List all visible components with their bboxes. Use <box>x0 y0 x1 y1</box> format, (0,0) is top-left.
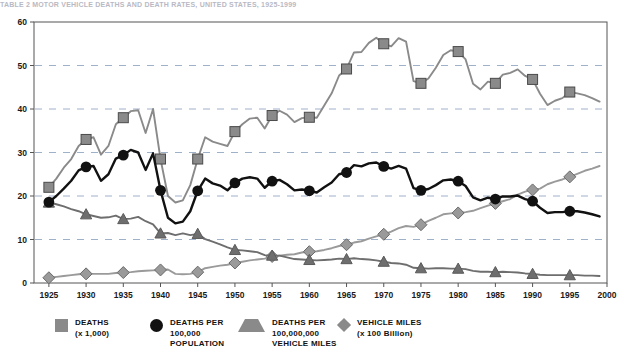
legend-sub2-deaths-per-vehicle-miles: VEHICLE MILES <box>272 339 337 350</box>
svg-text:10: 10 <box>18 235 28 245</box>
svg-text:1940: 1940 <box>151 290 170 300</box>
svg-text:60: 60 <box>18 17 28 27</box>
svg-text:1935: 1935 <box>114 290 133 300</box>
svg-text:1995: 1995 <box>560 290 579 300</box>
legend-sub2-deaths-per-population: POPULATION <box>170 339 224 350</box>
circle-marker-icon <box>150 319 163 332</box>
square-marker-icon <box>55 319 68 332</box>
svg-text:1960: 1960 <box>300 290 319 300</box>
svg-text:1975: 1975 <box>412 290 431 300</box>
svg-text:1965: 1965 <box>337 290 356 300</box>
legend-item-deaths-per-population: DEATHS PER 100,000 POPULATION <box>150 318 224 350</box>
legend-item-vehicle-miles: VEHICLE MILES (x 100 Billion) <box>337 318 422 339</box>
legend-label-deaths: DEATHS <box>75 318 109 329</box>
legend-sub-deaths-per-vehicle-miles: 100,000,000 <box>272 329 337 340</box>
diamond-marker-icon <box>337 318 351 332</box>
line-chart-plot: 0102030405060192519301935194019451950195… <box>0 0 624 312</box>
svg-text:2000: 2000 <box>598 290 617 300</box>
legend-sub-deaths-per-population: 100,000 <box>170 329 224 340</box>
svg-text:1945: 1945 <box>188 290 207 300</box>
svg-text:1930: 1930 <box>77 290 96 300</box>
svg-text:1970: 1970 <box>374 290 393 300</box>
svg-text:1990: 1990 <box>523 290 542 300</box>
chart-legend: DEATHS (x 1,000) DEATHS PER 100,000 POPU… <box>0 312 624 358</box>
legend-sub-vehicle-miles: (x 100 Billion) <box>357 329 422 340</box>
svg-text:30: 30 <box>18 148 28 158</box>
svg-text:20: 20 <box>18 191 28 201</box>
svg-text:40: 40 <box>18 104 28 114</box>
legend-item-deaths-per-vehicle-miles: DEATHS PER 100,000,000 VEHICLE MILES <box>238 318 337 350</box>
chart-container: TABLE 2 MOTOR VEHICLE DEATHS AND DEATH R… <box>0 0 624 358</box>
svg-text:1985: 1985 <box>486 290 505 300</box>
legend-label-vehicle-miles: VEHICLE MILES <box>357 318 422 329</box>
legend-sub-deaths: (x 1,000) <box>75 329 109 340</box>
triangle-marker-icon <box>238 319 265 332</box>
svg-text:50: 50 <box>18 61 28 71</box>
legend-label-deaths-per-vehicle-miles: DEATHS PER <box>272 318 337 329</box>
svg-text:1980: 1980 <box>449 290 468 300</box>
svg-text:0: 0 <box>22 278 27 288</box>
svg-text:1950: 1950 <box>225 290 244 300</box>
legend-label-deaths-per-population: DEATHS PER <box>170 318 224 329</box>
svg-text:1955: 1955 <box>263 290 282 300</box>
svg-text:1925: 1925 <box>39 290 58 300</box>
legend-item-deaths: DEATHS (x 1,000) <box>55 318 109 339</box>
